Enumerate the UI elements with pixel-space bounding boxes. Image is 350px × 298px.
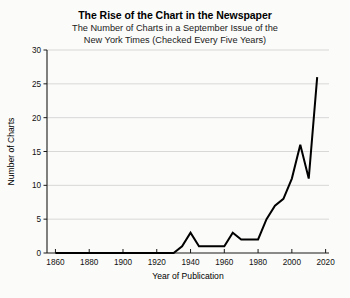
x-axis-title: Year of Publication — [152, 271, 224, 281]
x-tick-label: 2020 — [317, 258, 336, 267]
x-tick-label: 1900 — [114, 258, 133, 267]
y-tick-label: 15 — [32, 148, 42, 157]
y-tick-label: 30 — [32, 46, 42, 55]
y-axis-title: Number of Charts — [6, 118, 16, 186]
y-tick-label: 5 — [36, 215, 41, 224]
y-axis-ticks-group: 051015202530 — [32, 46, 47, 258]
x-tick-label: 1920 — [148, 258, 167, 267]
y-tick-label: 20 — [32, 114, 42, 123]
x-tick-label: 1860 — [46, 258, 65, 267]
data-series-line — [55, 77, 317, 253]
x-tick-label: 2000 — [283, 258, 302, 267]
x-axis-ticks-group: 186018801900192019401960198020002020 — [46, 249, 335, 267]
y-tick-label: 10 — [32, 181, 42, 190]
line-chart-plot: 051015202530 186018801900192019401960198… — [0, 0, 350, 298]
x-tick-label: 1980 — [249, 258, 268, 267]
gridlines-group — [47, 50, 329, 219]
x-tick-label: 1960 — [215, 258, 234, 267]
chart-figure: The Rise of the Chart in the Newspaper T… — [0, 0, 350, 298]
y-tick-label: 0 — [36, 249, 41, 258]
y-tick-label: 25 — [32, 80, 42, 89]
x-tick-label: 1880 — [80, 258, 99, 267]
x-tick-label: 1940 — [181, 258, 200, 267]
